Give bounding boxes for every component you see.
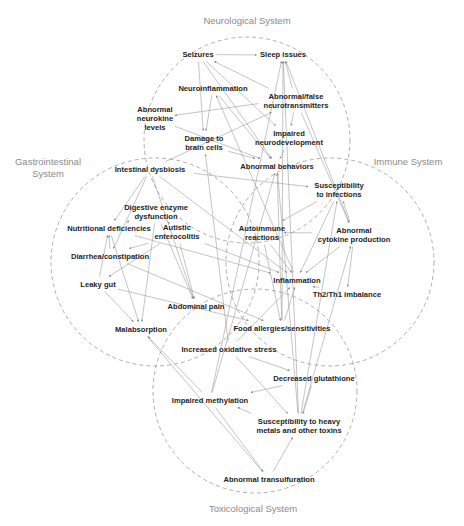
node-impaired_methyl: Impaired methylation — [172, 396, 249, 405]
node-damage_brain: Damage tobrain cells — [185, 134, 224, 152]
edge-heavy_metals-to-impaired_methyl — [238, 408, 252, 414]
node-label: Sleep issues — [260, 50, 306, 59]
edge-abn_neurotrans-to-abn_neurokine — [175, 104, 259, 116]
node-label: enterocolitis — [154, 232, 199, 241]
edge-abn_cytokine-to-inflammation — [306, 247, 340, 273]
system-label-immune: Immune System — [374, 156, 443, 167]
node-neuroinflam: Neuroinflammation — [178, 84, 248, 93]
system-label-gi: System — [32, 168, 64, 179]
system-label-neuro: Neurological System — [203, 15, 290, 26]
node-label: levels — [144, 123, 165, 132]
node-label: Malabsorption — [115, 325, 167, 334]
node-th2th1: Th2/Th1 imbalance — [313, 290, 381, 299]
node-label: Food allergies/sensitivities — [233, 324, 330, 333]
node-label: neurokine — [137, 114, 173, 123]
venn-network-diagram: Neurological SystemGastrointestinalSyste… — [0, 0, 464, 526]
edge-ox_stress-to-damage_brain — [205, 155, 228, 342]
node-glutathione: Decreased glutathione — [273, 374, 354, 383]
node-label: Inflammation — [273, 276, 321, 285]
edge-neuroinflam-to-damage_brain — [206, 96, 212, 131]
node-label: Th2/Th1 imbalance — [313, 290, 381, 299]
node-label: Autoimmune — [239, 224, 285, 233]
node-label: metals and other toxins — [256, 426, 341, 435]
node-autistic_ent: Autisticenterocolitis — [154, 223, 199, 241]
node-leaky_gut: Leaky gut — [80, 280, 116, 289]
edge-glutathione-to-heavy_metals — [303, 386, 312, 414]
edge-suscept_infect-to-autoimmune — [283, 202, 317, 221]
node-label: Autistic — [163, 223, 191, 232]
node-label: cytokine production — [318, 235, 391, 244]
node-label: Abnormal behaviors — [240, 162, 313, 171]
node-label: Impaired — [273, 129, 305, 138]
nodes: SeizuresSleep issuesNeuroinflammationAbn… — [67, 50, 390, 484]
node-food_allergies: Food allergies/sensitivities — [233, 324, 330, 333]
node-label: Neuroinflammation — [178, 84, 248, 93]
node-label: reactions — [245, 233, 279, 242]
node-seizures: Seizures — [182, 50, 213, 59]
node-ox_stress: Increased oxidative stress — [182, 345, 277, 354]
node-transsulf: Abnormal transulfuration — [223, 475, 314, 484]
node-abn_cytokine: Abnormalcytokine production — [318, 226, 391, 244]
node-inflammation: Inflammation — [273, 276, 321, 285]
node-label: Susceptibility — [314, 181, 364, 190]
edge-leaky_gut-to-malabsorption — [105, 292, 134, 322]
node-label: to infections — [316, 190, 361, 199]
node-label: Abnormal — [137, 105, 172, 114]
node-label: Diarrhea/constipation — [71, 252, 149, 261]
node-label: neurotransmitters — [264, 101, 329, 110]
node-label: Damage to — [185, 134, 224, 143]
edge-impaired_neurodev-to-abn_behaviors — [280, 150, 284, 159]
node-autoimmune: Autoimmunereactions — [239, 224, 285, 242]
node-label: Susceptibility to heavy — [258, 417, 341, 426]
node-label: Nutritional deficiencies — [67, 224, 151, 233]
node-nutr_def: Nutritional deficiencies — [67, 224, 151, 233]
node-label: Impaired methylation — [172, 396, 249, 405]
node-malabsorption: Malabsorption — [115, 325, 167, 334]
node-label: Abdominal pain — [168, 302, 225, 311]
node-impaired_neurodev: Impairedneurodevelopment — [255, 129, 323, 147]
edge-nutr_def-to-malabsorption — [111, 236, 138, 322]
edge-impaired_methyl-to-transsulf — [215, 408, 263, 472]
edge-glutathione-to-impaired_methyl — [251, 386, 283, 393]
edge-seizures-to-impaired_neurodev — [206, 62, 275, 126]
edge-heavy_metals-to-sleep — [283, 62, 298, 414]
node-label: Decreased glutathione — [273, 374, 354, 383]
edge-seizures-to-damage_brain — [199, 62, 204, 131]
diagram-canvas: Neurological SystemGastrointestinalSyste… — [0, 0, 464, 526]
node-sleep: Sleep issues — [260, 50, 306, 59]
node-label: Digestive enzyme — [124, 203, 188, 212]
node-abn_behaviors: Abnormal behaviors — [240, 162, 313, 171]
edge-abn_neurotrans-to-impaired_neurodev — [291, 113, 293, 126]
node-abn_neurokine: Abnormalneurokinelevels — [137, 105, 173, 132]
edge-autistic_ent-to-diarrhea — [129, 243, 148, 248]
node-label: Abnormal — [336, 226, 371, 235]
node-label: Abnormal transulfuration — [223, 475, 314, 484]
edge-diarrhea-to-food_allergies — [127, 264, 263, 321]
system-circle-gi — [51, 158, 259, 366]
node-label: Intestinal dysbiosis — [115, 165, 185, 174]
node-diarrhea: Diarrhea/constipation — [71, 252, 149, 261]
edge-transsulf-to-heavy_metals — [273, 438, 293, 472]
system-circles — [51, 37, 434, 493]
edge-inflammation-to-th2th1 — [313, 287, 319, 288]
node-label: Leaky gut — [80, 280, 116, 289]
node-label: neurodevelopment — [255, 138, 323, 147]
node-heavy_metals: Susceptibility to heavymetals and other … — [256, 417, 341, 435]
system-label-gi: Gastrointestinal — [15, 156, 81, 167]
edge-impaired_methyl-to-abn_behaviors — [212, 174, 275, 393]
node-abn_neurotrans: Abnormal/falseneurotransmitters — [264, 92, 329, 110]
node-dig_enzyme: Digestive enzymedysfunction — [124, 203, 188, 221]
node-label: Increased oxidative stress — [182, 345, 277, 354]
node-abd_pain: Abdominal pain — [168, 302, 225, 311]
edge-ox_stress-to-glutathione — [249, 357, 290, 371]
node-label: dysfunction — [134, 212, 177, 221]
node-label: Abnormal/false — [269, 92, 324, 101]
system-label-tox: Toxicological System — [209, 503, 297, 514]
node-intest_dysbiosis: Intestinal dysbiosis — [115, 165, 185, 174]
edge-autistic_ent-to-abd_pain — [180, 244, 194, 299]
node-label: Seizures — [182, 50, 213, 59]
node-label: brain cells — [185, 143, 223, 152]
node-suscept_infect: Susceptibilityto infections — [314, 181, 364, 199]
